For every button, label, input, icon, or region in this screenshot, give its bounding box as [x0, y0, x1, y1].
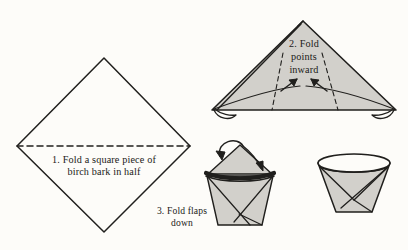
- step-1-caption-line-2: birch bark in half: [67, 166, 141, 177]
- folding-diagram: 1. Fold a square piece of birch bark in …: [0, 0, 408, 250]
- kite-lower: [207, 176, 273, 225]
- cup-rim: [318, 154, 390, 172]
- step-3-caption-line-2: down: [171, 217, 193, 228]
- step-2-caption: 2. Fold points inward: [289, 38, 319, 75]
- step-2-caption-line-1: 2. Fold: [289, 38, 319, 49]
- step-3-caption-line-1: 3. Fold flaps: [157, 205, 207, 216]
- step-2-caption-line-3: inward: [289, 64, 318, 75]
- step-1-caption-line-1: 1. Fold a square piece of: [52, 154, 156, 165]
- step-2-caption-line-2: points: [291, 51, 317, 62]
- diagram-canvas: 1. Fold a square piece of birch bark in …: [0, 0, 408, 250]
